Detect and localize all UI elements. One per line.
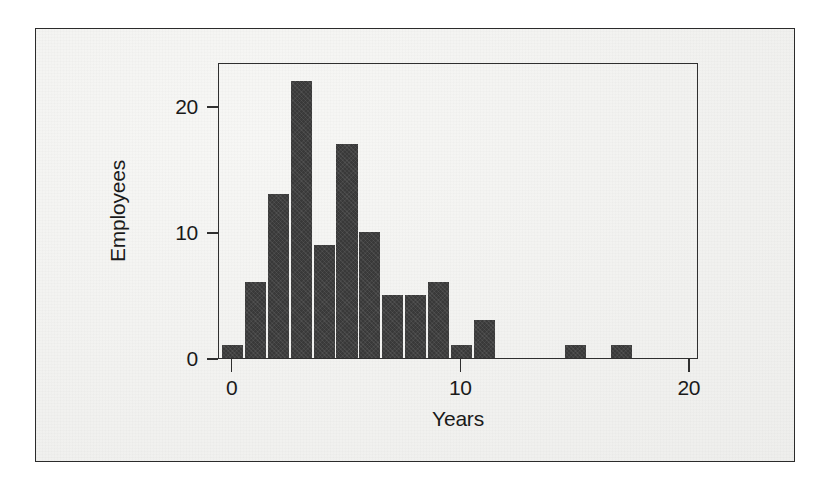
histogram-bar [291,81,312,358]
x-tick-label: 20 [677,376,700,400]
y-tick-label: 10 [175,221,198,245]
y-tick-label: 0 [187,347,198,371]
histogram-bar [428,282,449,358]
y-axis: Employees 01020 [36,29,218,463]
x-tick-label: 0 [226,376,237,400]
y-tick-mark [207,358,218,360]
plot-panel [218,63,698,359]
y-tick-label: 20 [175,95,198,119]
histogram-bar [611,345,632,358]
histogram-bar [245,282,266,358]
histogram-bar [405,295,426,358]
histogram-bar [474,320,495,358]
histogram-bar [268,194,289,358]
histogram-bar [336,144,357,358]
x-tick-mark [460,359,462,372]
y-tick-mark [207,106,218,108]
y-tick-mark [207,232,218,234]
y-axis-title: Employees [106,160,130,262]
histogram-bar [382,295,403,358]
x-tick-mark [688,359,690,372]
x-tick-label: 10 [449,376,472,400]
x-axis-title: Years [432,407,484,431]
figure-outer-frame: Employees 01020 01020 Years [35,28,795,462]
histogram-bar [222,345,243,358]
histogram-bar [314,245,335,358]
x-tick-mark [231,359,233,372]
histogram-bar [565,345,586,358]
histogram-bar [359,232,380,358]
histogram-bar [451,345,472,358]
figure-root: Employees 01020 01020 Years [0,0,831,493]
